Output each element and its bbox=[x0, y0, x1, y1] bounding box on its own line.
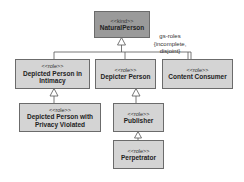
gs-name: gs-roles bbox=[146, 33, 194, 41]
node-content-consumer[interactable]: <<role>> Content Consumer bbox=[162, 59, 233, 89]
node-natural-person[interactable]: <<kind>> NaturalPerson bbox=[94, 11, 150, 38]
generalization-arrow-icon bbox=[118, 38, 126, 46]
node-name: Perpetrator bbox=[121, 154, 156, 161]
node-name: Depicted Person in Intimacy bbox=[16, 70, 89, 85]
gs-constraint-1: {incomplete, bbox=[146, 41, 194, 49]
node-depicter-person[interactable]: <<role>> Depicter Person bbox=[95, 59, 156, 89]
generalization-arrow-icon bbox=[50, 89, 58, 97]
node-name: NaturalPerson bbox=[100, 24, 144, 31]
node-name: Publisher bbox=[124, 117, 154, 124]
node-name: Depicter Person bbox=[101, 73, 151, 80]
node-name: Depicted Person with Privacy Violated bbox=[20, 113, 100, 128]
uml-diagram: <<kind>> NaturalPerson gs-roles {incompl… bbox=[0, 0, 244, 182]
generalization-set-label: gs-roles {incomplete, disjoint} bbox=[146, 33, 194, 56]
gs-constraint-2: disjoint} bbox=[146, 48, 194, 56]
node-publisher[interactable]: <<role>> Publisher bbox=[113, 103, 164, 132]
generalization-arrow-icon bbox=[132, 89, 140, 97]
generalization-arrow-icon bbox=[135, 132, 142, 139]
node-depicted-person-in-intimacy[interactable]: <<role>> Depicted Person in Intimacy bbox=[15, 59, 90, 89]
node-perpetrator[interactable]: <<role>> Perpetrator bbox=[113, 140, 164, 169]
node-depicted-person-privacy-violated[interactable]: <<role>> Depicted Person with Privacy Vi… bbox=[19, 103, 101, 132]
node-name: Content Consumer bbox=[168, 73, 227, 80]
